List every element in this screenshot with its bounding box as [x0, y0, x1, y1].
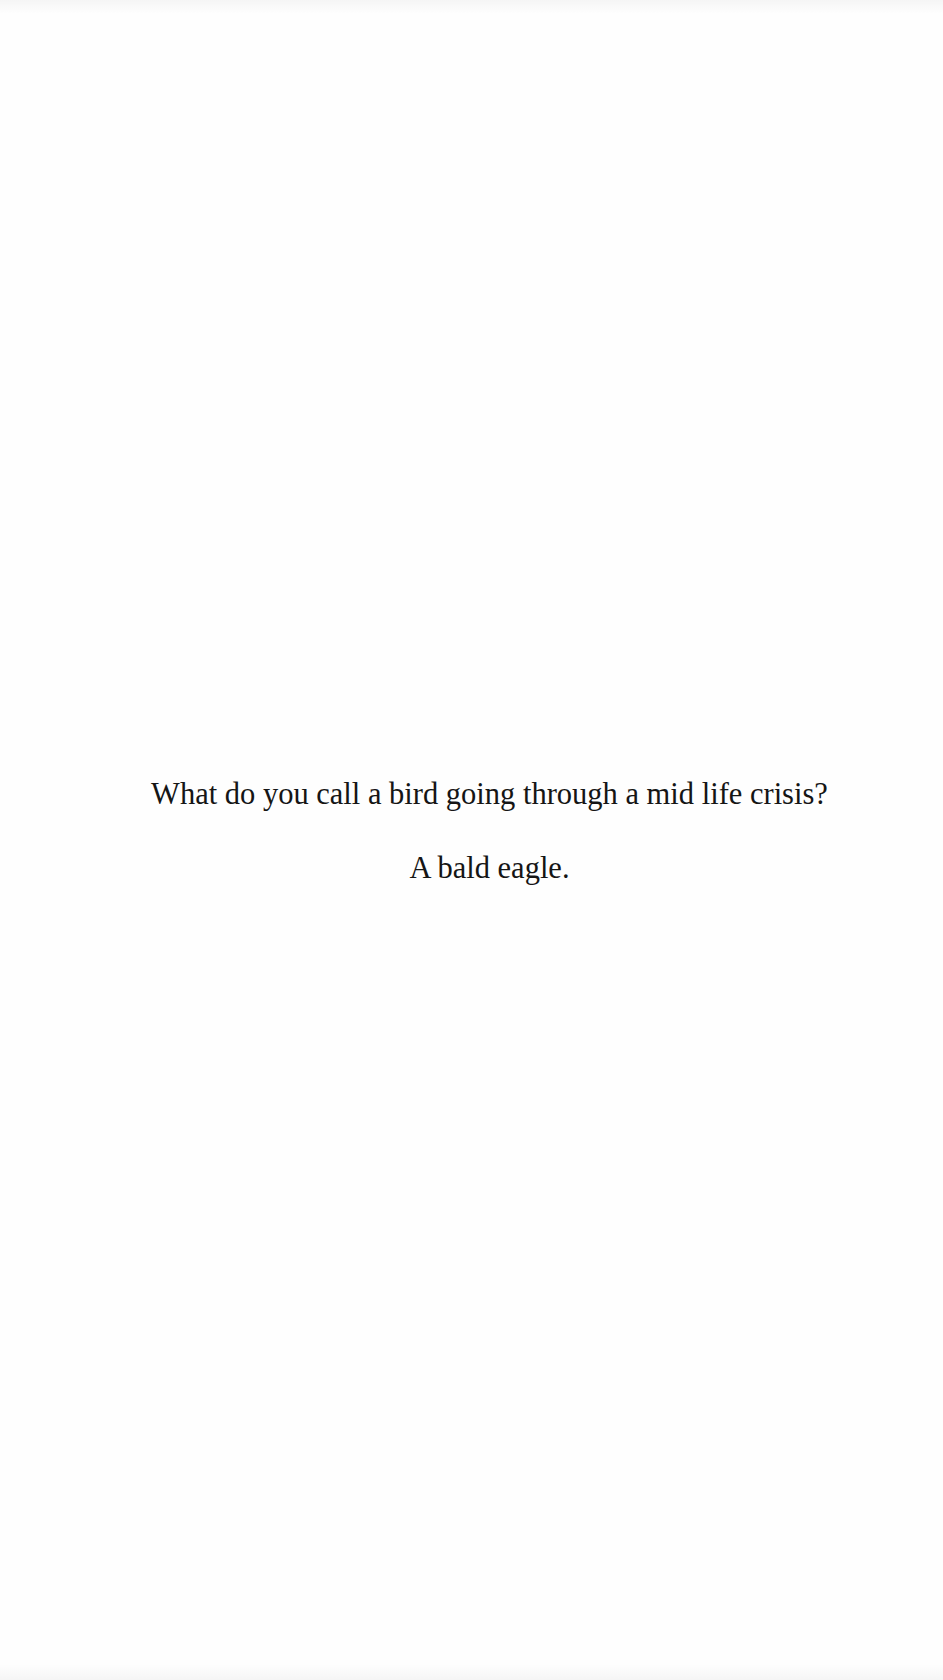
scan-edge-bottom — [0, 1664, 943, 1680]
joke-answer: A bald eagle. — [18, 853, 943, 884]
document-page: What do you call a bird going through a … — [0, 0, 943, 1680]
joke-question: What do you call a bird going through a … — [18, 779, 943, 810]
scan-edge-top — [0, 0, 943, 14]
